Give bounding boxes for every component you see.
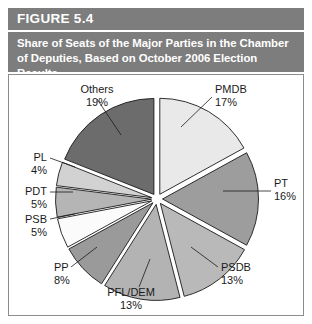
pie-label-psdb: PSDB13% bbox=[221, 261, 251, 286]
figure-number-bar: FIGURE 5.4 bbox=[8, 8, 304, 30]
pie-label-pt: PT16% bbox=[274, 177, 296, 202]
figure-number-label: FIGURE 5.4 bbox=[17, 11, 94, 26]
figure-container: FIGURE 5.4 Share of Seats of the Major P… bbox=[8, 8, 304, 316]
pie-label-pp: PP8% bbox=[54, 261, 70, 286]
pie-label-pmdb: PMDB17% bbox=[215, 83, 247, 108]
pie-label-pdt: PDT5% bbox=[25, 185, 47, 210]
pie-label-psb: PSB5% bbox=[25, 213, 47, 238]
pie-label-pl: PL4% bbox=[31, 151, 47, 176]
pie-chart: PMDB17%PT16%PSDB13%PFL/DEM13%PP8%PSB5%PD… bbox=[9, 75, 303, 315]
chart-panel: PMDB17%PT16%PSDB13%PFL/DEM13%PP8%PSB5%PD… bbox=[8, 74, 304, 316]
pie-label-others: Others19% bbox=[80, 83, 114, 108]
figure-caption-bar: Share of Seats of the Major Parties in t… bbox=[8, 32, 304, 72]
